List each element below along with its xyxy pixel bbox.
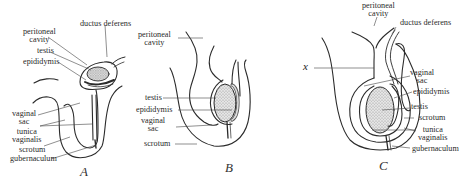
label-a-scrotum: scrotum [19, 146, 45, 154]
label-c-x-marker: x [303, 60, 308, 72]
label-c-scrotum: scrotum [419, 114, 445, 122]
label-a-vaginal-sac: vaginal sac [12, 110, 36, 126]
label-c-tunica-vaginalis: tunica vaginalis [418, 126, 448, 142]
label-a-gubernaculum: gubernaculum [10, 155, 57, 163]
label-text: vaginalis [418, 134, 448, 142]
label-c-testis: testis [411, 103, 428, 111]
label-a-epididymis: epididymis [23, 58, 59, 66]
label-a-ductus-deferens: ductus deferens [80, 20, 131, 28]
diagram-drawings [0, 0, 466, 181]
label-c-ductus-deferens: ductus deferens [400, 19, 451, 27]
panel-letter-b: B [225, 160, 233, 176]
label-a-testis: testis [37, 47, 54, 55]
label-b-testis: testis [145, 94, 162, 102]
label-b-epididymis: epididymis [136, 106, 172, 114]
label-text: cavity [23, 36, 56, 44]
label-text: vaginalis [12, 136, 42, 144]
label-c-peritoneal-cavity: peritoneal cavity [362, 2, 395, 18]
panel-letter-c: C [379, 158, 388, 174]
label-a-tunica-vaginalis: tunica vaginalis [12, 128, 42, 144]
label-text: cavity [138, 39, 171, 47]
label-b-scrotum: scrotum [144, 140, 170, 148]
label-text: sac [410, 77, 434, 85]
label-b-vaginal-sac: vaginal sac [141, 117, 165, 133]
label-c-vaginal-sac: vaginal sac [410, 69, 434, 85]
label-a-peritoneal-cavity: peritoneal cavity [23, 28, 56, 44]
label-text: cavity [362, 10, 395, 18]
panel-b-drawing [170, 32, 250, 146]
label-c-epididymis: epididymis [413, 88, 449, 96]
panel-c-drawing [322, 28, 420, 150]
label-c-gubernaculum: gubernaculum [412, 145, 459, 153]
label-b-peritoneal-cavity: peritoneal cavity [138, 31, 171, 47]
label-text: sac [141, 125, 165, 133]
panel-a-drawing [33, 57, 125, 158]
testis-descent-diagram: peritoneal cavity ductus deferens testis… [0, 0, 466, 181]
panel-letter-a: A [80, 164, 88, 180]
label-text: sac [12, 118, 36, 126]
